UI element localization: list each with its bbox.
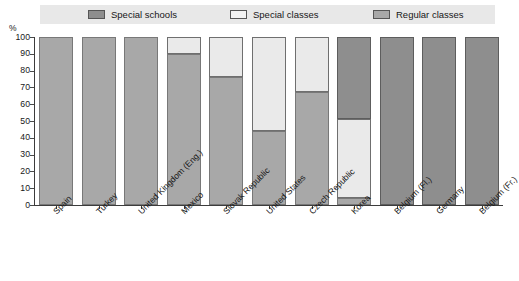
chart-legend: Special schools Special classes Regular … <box>40 5 495 24</box>
y-axis-tick-80: 80 <box>2 66 30 75</box>
x-axis-tick-labels: SpainTurkeyUnited Kingdom (Eng.)MexicoSl… <box>34 209 508 281</box>
bar-spain[interactable] <box>39 37 73 205</box>
y-axis-tick-0: 0 <box>2 201 30 210</box>
bar-turkey[interactable] <box>82 37 116 205</box>
bar-segment-reg[interactable] <box>82 37 116 205</box>
bar-segment-reg[interactable] <box>209 77 243 205</box>
bar-segment-cls[interactable] <box>167 37 201 54</box>
bar-segment-sch[interactable] <box>465 37 499 205</box>
bar-slovak-republic[interactable] <box>209 37 243 205</box>
y-axis-tick-30: 30 <box>2 150 30 159</box>
legend-swatch-special-classes <box>230 10 247 19</box>
legend-swatch-special-schools <box>88 10 105 19</box>
y-axis-tick-10: 10 <box>2 184 30 193</box>
bar-segment-reg[interactable] <box>295 92 329 205</box>
bar-belgium-fr[interactable] <box>465 37 499 205</box>
legend-swatch-regular-classes <box>373 10 390 19</box>
bar-belgium-fl[interactable] <box>380 37 414 205</box>
legend-label-special-schools: Special schools <box>111 10 177 20</box>
legend-item-special-classes: Special classes <box>230 5 318 24</box>
legend-label-regular-classes: Regular classes <box>396 10 464 20</box>
bar-segment-reg[interactable] <box>39 37 73 205</box>
bar-segment-cls[interactable] <box>252 37 286 131</box>
bar-united-kingdom-eng[interactable] <box>124 37 158 205</box>
y-axis-tick-40: 40 <box>2 133 30 142</box>
y-axis-tick-50: 50 <box>2 117 30 126</box>
y-axis-tick-labels: 1009080706050403020100 <box>0 30 30 212</box>
legend-item-special-schools: Special schools <box>88 5 177 24</box>
legend-label-special-classes: Special classes <box>253 10 318 20</box>
bar-segment-sch[interactable] <box>380 37 414 205</box>
bar-segment-sch[interactable] <box>337 37 371 119</box>
legend-item-regular-classes: Regular classes <box>373 5 464 24</box>
bar-segment-cls[interactable] <box>209 37 243 77</box>
y-axis-tick-60: 60 <box>2 100 30 109</box>
bar-segment-reg[interactable] <box>124 37 158 205</box>
y-axis-tick-70: 70 <box>2 83 30 92</box>
y-axis-tick-100: 100 <box>2 33 30 42</box>
bar-segment-cls[interactable] <box>295 37 329 92</box>
y-axis-tick-90: 90 <box>2 49 30 58</box>
y-axis-tick-20: 20 <box>2 167 30 176</box>
